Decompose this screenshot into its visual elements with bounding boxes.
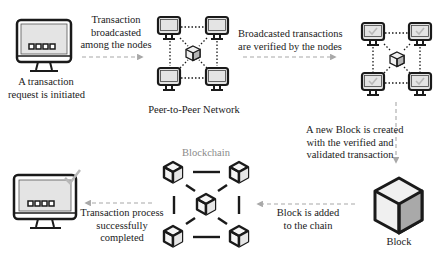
label-blockchain: Blockchain — [174, 147, 238, 160]
label-broadcast: Transaction broadcasted among the nodes — [80, 14, 152, 52]
blockchain-icon — [164, 162, 248, 247]
label-complete: Transaction process successfully complet… — [80, 207, 164, 245]
cube-icon — [375, 178, 422, 233]
label-new-block: A new Block is created with the verified… — [306, 124, 394, 162]
label-request: A transaction request is initiated — [8, 76, 84, 101]
peer-network-icon — [158, 17, 228, 90]
verified-network-icon — [362, 23, 431, 95]
label-p2p-network: Peer-to-Peer Network — [148, 104, 240, 117]
label-block: Block — [382, 236, 416, 249]
label-added-to-chain: Block is added to the chain — [271, 207, 345, 232]
computer-check-icon — [14, 170, 80, 228]
computer-icon — [17, 20, 71, 71]
label-verify: Broadcasted transactions are verified by… — [238, 28, 342, 53]
